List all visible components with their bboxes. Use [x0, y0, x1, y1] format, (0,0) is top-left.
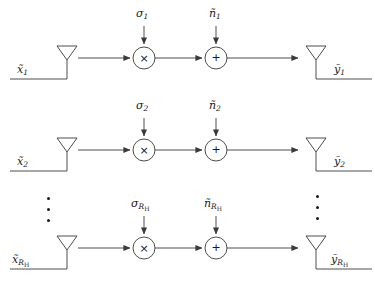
noise-subsub-3: H [217, 205, 222, 212]
add-glyph-3: + [208, 241, 224, 254]
input-label-3: x̃RH [12, 254, 29, 268]
noise-sub-2: 2 [216, 104, 221, 113]
gain-symbol-3: σ [131, 197, 139, 210]
output-label-2: ỹ2 [334, 156, 345, 169]
multiply-glyph-2: × [136, 144, 152, 157]
input-subsub-3: H [24, 261, 29, 268]
gain-subsub-3: H [144, 205, 149, 212]
gain-label-2: σ2 [136, 100, 148, 113]
noise-sub-1: 1 [216, 12, 221, 21]
input-label-2: x̃2 [17, 156, 28, 169]
noise-label-2: ñ2 [209, 100, 221, 113]
gain-label-1: σ1 [136, 8, 148, 21]
input-sub-3: RH [18, 258, 29, 267]
channel-row-1 [10, 26, 372, 79]
input-sub-2: 2 [23, 160, 28, 169]
output-label-3: ỹRH [331, 254, 348, 268]
noise-label-1: ñ1 [209, 8, 221, 21]
gain-label-3: σRH [131, 198, 149, 212]
add-glyph-1: + [208, 51, 224, 64]
noise-sub-3: RH [211, 202, 222, 211]
noise-label-3: ñRH [204, 198, 222, 212]
channel-row-2 [10, 118, 372, 171]
output-sub-1: 1 [340, 68, 345, 77]
block-diagram-figure: × + × + × + x̃1 σ1 ñ1 ỹ1 x̃2 σ2 ñ2 ỹ… [0, 0, 375, 288]
add-glyph-2: + [208, 143, 224, 156]
output-sub-3: RH [337, 258, 348, 267]
output-subsub-3: H [343, 261, 348, 268]
output-label-1: ỹ1 [334, 64, 345, 77]
vertical-ellipsis-left [47, 197, 50, 222]
vertical-ellipsis-right [316, 195, 319, 220]
channel-row-3 [10, 216, 372, 269]
gain-sub-2: 2 [144, 104, 149, 113]
gain-symbol-2: σ [136, 99, 144, 112]
gain-symbol-1: σ [136, 7, 144, 20]
multiply-glyph-3: × [136, 242, 152, 255]
input-label-1: x̃1 [17, 64, 28, 77]
gain-sub-1: 1 [144, 12, 149, 21]
multiply-glyph-1: × [136, 52, 152, 65]
input-sub-1: 1 [23, 68, 28, 77]
gain-sub-3: RH [139, 202, 150, 211]
output-sub-2: 2 [340, 160, 345, 169]
diagram-canvas [0, 0, 375, 288]
